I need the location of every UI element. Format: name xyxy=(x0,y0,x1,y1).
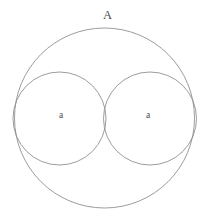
outer-circle-label: A xyxy=(103,9,112,22)
left-inner-circle-label: a xyxy=(59,111,63,121)
figure-canvas: A a a xyxy=(0,0,209,221)
right-inner-circle-label: a xyxy=(146,111,150,121)
outer-circle xyxy=(15,28,195,208)
circle-diagram-svg xyxy=(0,0,209,221)
